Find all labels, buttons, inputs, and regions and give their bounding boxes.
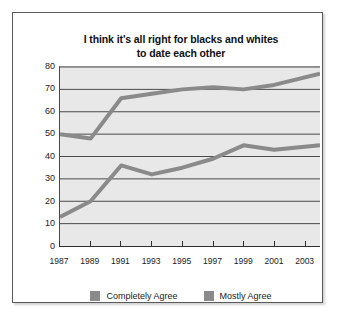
series-lines [60,74,320,217]
x-axis-line [59,246,320,247]
y-axis-tick-label: 70 [29,84,55,93]
y-axis-tick-label: 30 [29,174,55,183]
legend-swatch-mostly-agree [204,291,214,301]
y-axis-tick-label: 40 [29,152,55,161]
x-axis-tick-label: 2003 [285,256,325,266]
legend-label: Mostly Agree [220,291,272,301]
legend-label: Completely Agree [106,291,177,301]
plot-area [59,66,320,246]
y-axis-tick-label: 10 [29,219,55,228]
chart-legend: Completely AgreeMostly Agree [35,291,327,301]
chart-title: I think it's all right for blacks and wh… [35,33,327,60]
y-axis-labels: 01020304050607080 [25,66,55,246]
chart-frame: I think it's all right for blacks and wh… [12,12,323,303]
x-axis-labels: 198719891991199319951997199920012003 [59,256,320,270]
legend-item[interactable]: Completely Agree [90,291,177,301]
y-axis-tick-label: 50 [29,129,55,138]
y-axis-tick-label: 20 [29,197,55,206]
plot-svg [60,67,320,246]
y-axis-tick-label: 80 [29,62,55,71]
legend-swatch-completely-agree [90,291,100,301]
y-axis-tick-label: 60 [29,107,55,116]
figure-canvas: I think it's all right for blacks and wh… [0,0,338,319]
y-axis-tick-label: 0 [29,242,55,251]
legend-item[interactable]: Mostly Agree [204,291,272,301]
chart-title-line-2: to date each other [35,47,327,61]
data-series-line [60,74,320,139]
chart-title-line-1: I think it's all right for blacks and wh… [84,33,279,45]
